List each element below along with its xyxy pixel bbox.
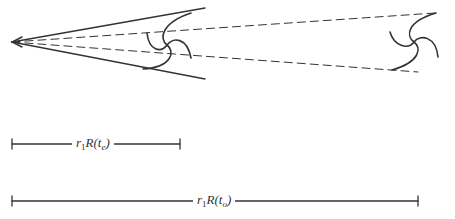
dashed-ray-lower — [12, 42, 418, 72]
expansion-diagram — [0, 0, 455, 219]
dashed-ray-upper — [12, 13, 435, 42]
label-distance-observed: r1R(to) — [193, 193, 235, 211]
label-distance-emission: r1R(te) — [72, 136, 114, 154]
light-cone-lower — [12, 42, 205, 79]
light-cone-upper — [12, 8, 205, 42]
galaxy-observed-icon — [390, 13, 438, 70]
galaxy-emission-icon — [143, 13, 191, 69]
